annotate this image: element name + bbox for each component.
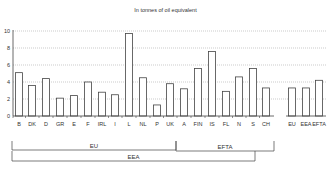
bar-eu	[289, 88, 296, 116]
bar-nl	[140, 78, 147, 116]
y-tick-label: 6	[7, 62, 10, 68]
y-tick-label: 0	[7, 113, 10, 119]
x-tick-label: B	[17, 121, 21, 127]
x-tick-label: S	[251, 121, 255, 127]
x-tick-label: EFTA	[312, 121, 326, 127]
x-tick-label: N	[237, 121, 241, 127]
x-tick-label: FL	[223, 121, 229, 127]
x-tick-label: UK	[166, 121, 174, 127]
bar-gr	[57, 98, 64, 116]
bar-fin	[195, 68, 202, 116]
bar-irl	[99, 92, 106, 116]
x-tick-label: CH	[262, 121, 270, 127]
y-tick-label: 4	[7, 79, 10, 85]
bar-uk	[167, 84, 174, 116]
x-tick-label: IRL	[98, 121, 107, 127]
x-tick-label: A	[182, 121, 186, 127]
bar-l	[126, 34, 133, 116]
bar-is	[209, 51, 216, 116]
bar-f	[85, 82, 92, 116]
bar-e	[71, 96, 78, 116]
x-tick-label: L	[127, 121, 130, 127]
bar-i	[112, 95, 119, 116]
bar-dk	[29, 85, 36, 116]
bar-chart: 0246810BDKDGREFIRLILNLPUKAFINISFLNSCHEUE…	[0, 0, 331, 173]
x-tick-label: P	[155, 121, 159, 127]
x-tick-label: EEA	[300, 121, 311, 127]
bar-efta	[316, 80, 323, 116]
x-tick-label: IS	[209, 121, 215, 127]
bar-eea	[303, 88, 310, 116]
bar-d	[43, 79, 50, 116]
x-tick-label: F	[86, 121, 90, 127]
bar-b	[16, 73, 23, 116]
y-tick-label: 8	[7, 45, 10, 51]
x-tick-label: DK	[28, 121, 36, 127]
x-tick-label: GR	[56, 121, 64, 127]
x-tick-label: E	[72, 121, 76, 127]
bar-fl	[223, 91, 230, 116]
x-tick-label: I	[114, 121, 116, 127]
bar-n	[236, 77, 243, 116]
bar-s	[250, 68, 257, 116]
x-tick-label: D	[44, 121, 48, 127]
x-tick-label: FIN	[194, 121, 203, 127]
bar-ch	[263, 88, 270, 116]
eea-group-label: EEA	[127, 154, 139, 160]
y-tick-label: 2	[7, 96, 10, 102]
x-tick-label: NL	[139, 121, 146, 127]
y-tick-label: 10	[4, 28, 10, 34]
eu-group-label: EU	[90, 143, 98, 149]
x-tick-label: EU	[288, 121, 296, 127]
bar-a	[181, 89, 188, 116]
efta-group-label: EFTA	[218, 144, 233, 150]
bar-p	[154, 105, 161, 116]
